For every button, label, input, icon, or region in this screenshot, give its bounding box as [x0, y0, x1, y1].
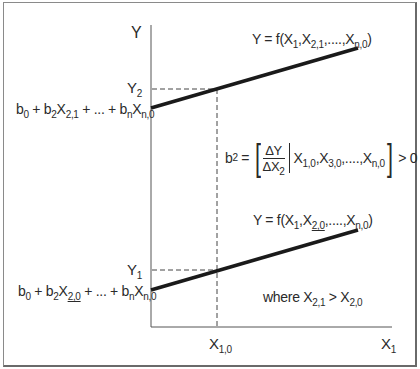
sub: 2,1	[66, 109, 79, 120]
sub: 1,0	[303, 158, 316, 169]
sub: 2,1	[312, 297, 325, 308]
lower-line-label: Y = f(X1,X2,0,....,Xn,0)	[253, 213, 373, 227]
sub: n,0	[143, 291, 156, 302]
conditional-bar	[289, 143, 290, 173]
text: X	[57, 101, 66, 117]
left-bracket: [	[255, 140, 261, 176]
text: ΔX	[263, 159, 280, 174]
right-bracket: ]	[387, 140, 393, 176]
text: X	[59, 283, 68, 299]
upper-function-line	[151, 48, 358, 108]
sub: n,0	[354, 39, 367, 50]
text: + b	[31, 283, 54, 299]
sub: n,0	[372, 158, 385, 169]
sub: 2,1	[311, 39, 324, 50]
y1-main: Y	[127, 261, 137, 278]
y2-main: Y	[127, 79, 137, 96]
x-axis-label: X1	[381, 336, 396, 351]
slope-equation: b2 = [ ΔY ΔX2 X1,0,X3,0,....,Xn,0 ] > 0	[225, 140, 417, 176]
text: + ... + b	[79, 101, 127, 117]
y2-sub: 2	[137, 88, 142, 99]
fraction: ΔY ΔX2	[263, 143, 285, 174]
text: b	[16, 101, 24, 117]
sub: 2,0	[349, 297, 362, 308]
sub: 1,0	[219, 344, 232, 355]
text: > 0	[395, 151, 418, 165]
text: ,X	[299, 212, 312, 228]
plot-area	[0, 0, 420, 369]
y-axis-label: Y	[131, 25, 141, 41]
text: ,X	[316, 150, 329, 166]
y1-sub: 1	[137, 270, 142, 281]
text: X	[132, 101, 141, 117]
conditions: X1,0,X3,0,....,Xn,0	[294, 151, 385, 165]
sub: 1	[391, 344, 396, 355]
y2-label: Y2	[127, 80, 142, 95]
lower-intercept-label: b0 + b2X2,0 + ... + bnXn,0	[18, 284, 156, 298]
text: =	[238, 151, 253, 165]
sub: 2,0	[312, 220, 325, 231]
x10-tick-label: X1,0	[209, 336, 232, 351]
text: X	[209, 335, 219, 352]
text: ,....,X	[324, 31, 355, 47]
y1-label: Y1	[127, 262, 142, 277]
text: where X	[263, 289, 312, 305]
text: X	[134, 283, 143, 299]
sub: 3,0	[328, 158, 341, 169]
text: Y = f(X	[252, 31, 293, 47]
text: ,X	[298, 31, 311, 47]
text: X	[381, 335, 391, 352]
text: + ... + b	[81, 283, 129, 299]
upper-line-label: Y = f(X1,X2,1,....,Xn,0)	[252, 32, 372, 46]
sub: 2	[279, 166, 284, 177]
sub: n,0	[355, 220, 368, 231]
sub: 2,0	[68, 291, 81, 302]
lower-function-line	[151, 230, 358, 290]
text: ,....,X	[341, 150, 372, 166]
upper-intercept-label: b0 + b2X2,1 + ... + bnXn,0	[16, 102, 154, 116]
text: )	[367, 31, 371, 47]
text: + b	[29, 101, 52, 117]
text: )	[368, 212, 372, 228]
text: ,....,X	[325, 212, 356, 228]
text: Y = f(X	[253, 212, 294, 228]
text: b	[18, 283, 26, 299]
text: X	[294, 150, 303, 166]
condition-note: where X2,1 > X2,0	[263, 290, 362, 304]
sub: n,0	[141, 109, 154, 120]
text: > X	[325, 289, 349, 305]
numerator: ΔY	[263, 143, 285, 159]
text: b	[225, 151, 233, 165]
denominator: ΔX2	[263, 159, 285, 174]
